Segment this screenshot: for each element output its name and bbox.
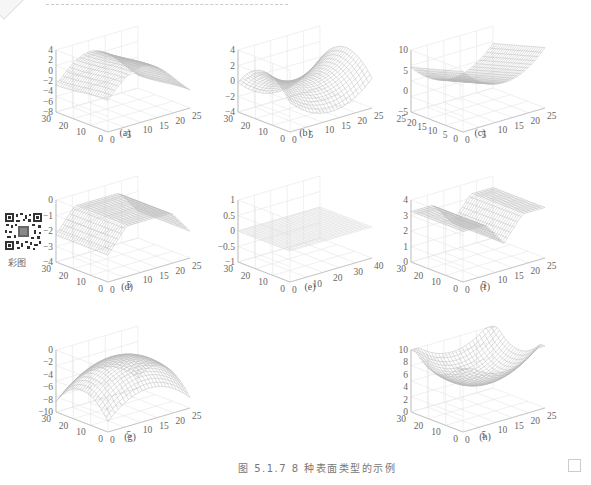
y-tick-label: 30	[397, 264, 407, 274]
surface-plot-d: 0−1−2−3−430201000510152025	[40, 190, 220, 330]
x-tick-label: 25	[547, 411, 557, 421]
y-tick-label: 0	[280, 134, 285, 144]
x-tick-label: 10	[143, 275, 153, 285]
surface-plot-b: 420−2−430201000510152025	[222, 40, 402, 180]
y-tick-label: 20	[414, 271, 424, 281]
x-tick-label: 25	[192, 411, 202, 421]
subfigure-label: (b)	[290, 127, 320, 138]
z-tick-label: 4	[403, 195, 408, 205]
z-tick-label: 10	[399, 345, 409, 355]
x-tick-label: 15	[514, 271, 524, 281]
z-tick-label: 10	[399, 45, 409, 55]
y-tick-label: 30	[397, 414, 407, 424]
x-tick-label: 20	[531, 416, 541, 426]
y-tick-label: 5	[443, 130, 448, 140]
subfigure-label: (f)	[470, 281, 500, 292]
y-tick-label: 25	[397, 114, 407, 124]
z-tick-label: −8	[43, 395, 53, 405]
z-tick-label: −1	[43, 211, 53, 221]
surface-plot-g: 0−2−4−6−8−1030201000510152025	[40, 340, 220, 480]
x-tick-label: 25	[547, 111, 557, 121]
z-tick-label: 2	[403, 226, 408, 236]
qr-code-label: 彩图	[8, 256, 26, 269]
x-tick-label: 20	[531, 266, 541, 276]
y-tick-label: 10	[431, 427, 441, 437]
z-tick-label: 0	[230, 76, 235, 86]
z-tick-label: 0	[48, 66, 53, 76]
surface-plot-a: 420−2−4−6−830201000510152025	[40, 40, 220, 180]
x-tick-label: 25	[192, 111, 202, 121]
y-tick-label: 30	[224, 114, 234, 124]
y-tick-label: 10	[76, 277, 86, 287]
y-tick-label: 0	[98, 134, 103, 144]
z-tick-label: 4	[230, 45, 235, 55]
subfigure-label: (c)	[465, 127, 495, 138]
z-tick-label: 0	[48, 345, 53, 355]
z-tick-label: −2	[225, 92, 235, 102]
x-tick-label: 20	[176, 266, 186, 276]
subfigure-label: (e)	[295, 281, 325, 292]
x-tick-label: 15	[159, 121, 169, 131]
y-tick-label: 0	[98, 434, 103, 444]
z-tick-label: 1	[230, 195, 235, 205]
surface-plot-e: 10.50−0.5−13020100010203040	[222, 190, 402, 330]
x-tick-label: 25	[547, 261, 557, 271]
z-tick-label: −6	[43, 382, 53, 392]
y-tick-label: 30	[42, 264, 52, 274]
y-tick-label: 20	[407, 118, 417, 128]
y-tick-label: 20	[59, 421, 69, 431]
x-tick-label: 20	[176, 416, 186, 426]
x-tick-label: 10	[143, 125, 153, 135]
z-tick-label: −2	[43, 76, 53, 86]
z-tick-label: 6	[403, 370, 408, 380]
y-tick-label: 0	[98, 284, 103, 294]
y-tick-label: 30	[42, 414, 52, 424]
surface-plot-h: 108642030201000510152025	[395, 340, 575, 480]
x-tick-label: 10	[498, 125, 508, 135]
surface-plot-f: 4321030201000510152025	[395, 190, 575, 330]
z-tick-label: 2	[403, 395, 408, 405]
figure-caption: 图 5.1.7 8 种表面类型的示例	[238, 460, 396, 475]
z-tick-label: −2	[43, 226, 53, 236]
y-tick-label: 20	[59, 121, 69, 131]
z-tick-label: −4	[43, 370, 53, 380]
page-corner-box	[568, 459, 581, 472]
x-tick-label: 15	[159, 421, 169, 431]
y-tick-label: 10	[258, 277, 268, 287]
y-tick-label: 20	[241, 121, 251, 131]
x-tick-label: 20	[358, 116, 368, 126]
x-tick-label: 15	[514, 421, 524, 431]
surface-plot-c: 1050−525201510500510152025	[395, 40, 575, 180]
y-tick-label: 30	[224, 264, 234, 274]
z-tick-label: 0	[403, 86, 408, 96]
header-diamond-decoration	[0, 0, 24, 20]
z-tick-label: 3	[403, 211, 408, 221]
x-tick-label: 20	[531, 116, 541, 126]
z-tick-label: −3	[43, 242, 53, 252]
x-tick-label: 30	[354, 267, 364, 277]
x-tick-label: 40	[374, 261, 384, 271]
z-tick-label: −4	[43, 86, 53, 96]
z-tick-label: −2	[43, 357, 53, 367]
z-tick-label: 2	[48, 55, 53, 65]
z-tick-label: 2	[230, 61, 235, 71]
y-tick-label: 20	[59, 271, 69, 281]
y-tick-label: 10	[431, 277, 441, 287]
y-tick-label: 20	[241, 271, 251, 281]
z-tick-label: 0.5	[223, 211, 235, 221]
header-dashed-rule	[46, 4, 288, 5]
y-tick-label: 30	[42, 114, 52, 124]
z-tick-label: 8	[403, 357, 408, 367]
x-tick-label: 10	[325, 125, 335, 135]
z-tick-label: −6	[43, 97, 53, 107]
y-tick-label: 0	[453, 434, 458, 444]
subfigure-label: (d)	[112, 281, 142, 292]
x-tick-label: 15	[159, 271, 169, 281]
y-tick-label: 0	[453, 284, 458, 294]
subfigure-label: (g)	[115, 431, 145, 442]
y-tick-label: 10	[76, 127, 86, 137]
x-tick-label: 20	[176, 116, 186, 126]
y-tick-label: 10	[428, 126, 438, 136]
y-tick-label: 0	[280, 284, 285, 294]
z-tick-label: 5	[403, 66, 408, 76]
